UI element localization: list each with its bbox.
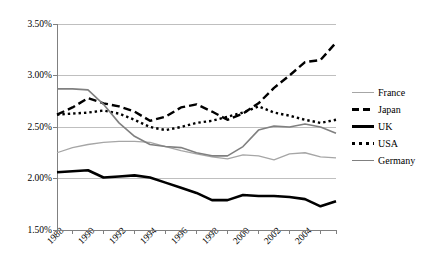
x-axis-ticks: [57, 230, 336, 234]
series-line-japan: [57, 43, 336, 121]
legend-item-usa[interactable]: USA: [352, 135, 426, 152]
legend-label-usa: USA: [378, 138, 398, 149]
legend-swatch-france-icon: [352, 88, 374, 98]
legend-item-uk[interactable]: UK: [352, 118, 426, 135]
series-line-germany: [57, 89, 336, 156]
legend-swatch-uk-icon: [352, 122, 374, 132]
legend-label-germany: Germany: [378, 155, 415, 166]
series-line-uk: [57, 170, 336, 206]
data-series-group: [57, 43, 336, 207]
legend-swatch-germany-icon: [352, 156, 374, 166]
chart-legend: France Japan UK USA Germany: [352, 84, 426, 169]
legend-label-japan: Japan: [378, 104, 401, 115]
legend-item-japan[interactable]: Japan: [352, 101, 426, 118]
line-chart: 3.50%3.00%2.50%2.00%1.50% 19881990199219…: [0, 0, 428, 275]
series-line-france: [57, 141, 336, 160]
legend-label-france: France: [378, 87, 405, 98]
legend-swatch-japan-icon: [352, 105, 374, 115]
legend-swatch-usa-icon: [352, 139, 374, 149]
legend-label-uk: UK: [378, 121, 392, 132]
legend-item-france[interactable]: France: [352, 84, 426, 101]
y-axis-ticks: [53, 24, 57, 230]
gridlines: [57, 24, 336, 230]
legend-item-germany[interactable]: Germany: [352, 152, 426, 169]
